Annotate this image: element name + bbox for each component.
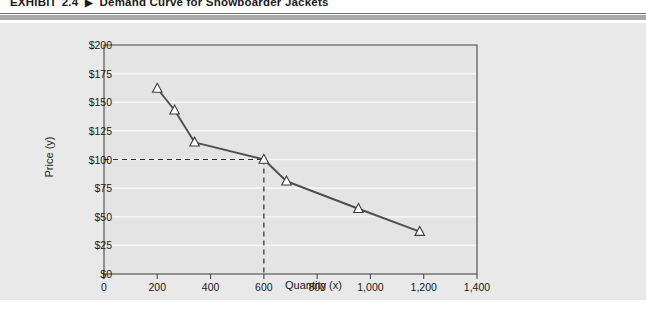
y-axis-title: Price (y) [43, 102, 55, 212]
header-rule-thin [0, 13, 646, 14]
exhibit-number: 2.4 [62, 0, 79, 8]
x-axis-tick-label: 0 [77, 282, 131, 293]
x-axis-title: Quantity (x) [127, 279, 500, 291]
chart-area: $0$25$50$75$100$125$150$175$200 02004006… [0, 23, 646, 300]
exhibit-caption: Demand Curve for Snowboarder Jackets [100, 0, 329, 8]
page-footer-space [0, 300, 646, 321]
header-rule-thick [0, 15, 646, 20]
exhibit-label: EXHIBIT [10, 0, 57, 8]
exhibit-title-row: EXHIBIT2.4▶Demand Curve for Snowboarder … [10, 0, 329, 8]
x-axis-tick-labels: 02004006008001,0001,2001,400 [0, 23, 646, 300]
exhibit-header: EXHIBIT2.4▶Demand Curve for Snowboarder … [0, 0, 646, 13]
chart-panel: $0$25$50$75$100$125$150$175$200 02004006… [0, 23, 646, 300]
triangle-right-icon: ▶ [85, 0, 93, 8]
